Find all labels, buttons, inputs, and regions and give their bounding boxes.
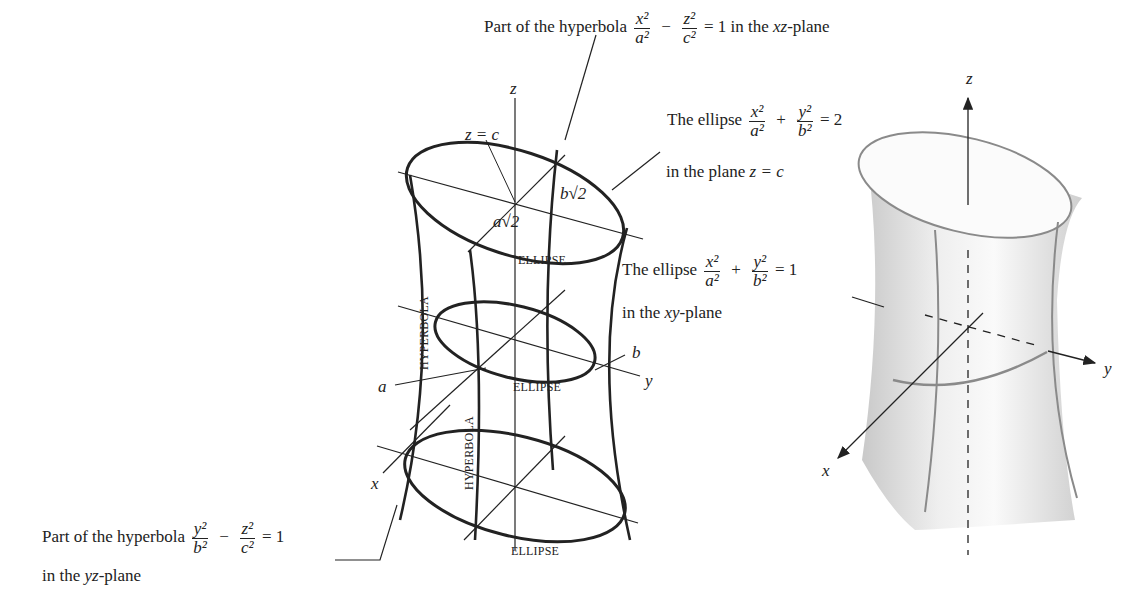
fraction: x²a² <box>634 10 650 47</box>
ellipse-xy-annotation: The ellipse x²a² + y²b² = 1 <box>622 253 797 290</box>
wireframe-y-axis-label: y <box>645 372 653 389</box>
hyperbola-xz-annotation: Part of the hyperbola x²a² − z²c² = 1 in… <box>484 10 830 47</box>
fraction: y²b² <box>797 103 813 140</box>
hyperbola-yz-annotation: Part of the hyperbola y²b² − z²c² = 1 <box>42 520 284 557</box>
wireframe-z-axis-label: z <box>510 80 517 97</box>
fraction: z²c² <box>240 520 255 557</box>
surface-z-axis-label: z <box>966 70 973 87</box>
hyperboloid-figure <box>0 0 1130 591</box>
ellipse-label-bottom: ELLIPSE <box>511 545 559 557</box>
plane-z-equals-c-label: z = c <box>465 126 499 143</box>
ellipse-top-annotation-line2: in the plane z = c <box>666 163 784 180</box>
hyperbola-back <box>547 150 557 470</box>
hyperbola-front <box>470 250 479 540</box>
fraction: y²b² <box>192 520 208 557</box>
b-root2-label: b√2 <box>560 185 586 202</box>
a-root2-label: a√2 <box>493 213 519 230</box>
fraction: y²b² <box>752 253 768 290</box>
surface-y-axis-label: y <box>1104 360 1112 377</box>
ellipse-xy-annotation-line2: in the xy-plane <box>622 304 722 321</box>
ellipse-label-top: ELLIPSE <box>518 254 566 266</box>
wireframe-x-axis-label: x <box>371 475 379 492</box>
x-axis-line <box>410 290 565 430</box>
hyperbola-label-left: HYPERBOLA <box>418 296 430 370</box>
fraction: x²a² <box>704 253 720 290</box>
fraction: z²c² <box>682 10 697 47</box>
a-label: a <box>378 378 387 395</box>
b-label: b <box>632 344 641 361</box>
ellipse-label-middle: ELLIPSE <box>513 381 561 393</box>
wireframe-hyperboloid <box>335 35 660 562</box>
hyperbola-label-front: HYPERBOLA <box>463 416 475 490</box>
hyperbola-yz-annotation-line2: in the yz-plane <box>42 567 141 584</box>
shaded-hyperboloid <box>838 98 1095 555</box>
fraction: x²a² <box>749 103 765 140</box>
surface-x-axis-label: x <box>822 462 830 479</box>
ellipse-top-annotation: The ellipse x²a² + y²b² = 2 <box>667 103 842 140</box>
